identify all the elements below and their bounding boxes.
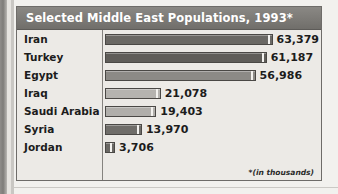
bar-value-label: 21,078 [165, 87, 207, 100]
bar-segment [105, 34, 273, 45]
bar-row: Syria13,970 [17, 120, 321, 138]
bar-value-label: 13,970 [146, 123, 188, 136]
chart-title-bar: Selected Middle East Populations, 1993* [17, 7, 321, 30]
bar-segment [105, 88, 161, 99]
bar-track: 19,403 [102, 102, 321, 120]
bar-row-label: Iran [17, 33, 102, 45]
bar-row: Jordan3,706 [17, 138, 321, 156]
bar-segment [105, 142, 115, 153]
bar-track: 21,078 [102, 84, 321, 102]
page-background: Selected Middle East Populations, 1993* … [0, 0, 338, 194]
bar-row: Saudi Arabia19,403 [17, 102, 321, 120]
bar-value-label: 61,187 [271, 51, 313, 64]
bar-segment [105, 70, 256, 81]
bar-track: 61,187 [102, 48, 321, 66]
bar-track: 13,970 [102, 120, 321, 138]
page-binding-edge [0, 0, 7, 194]
bar-value-label: 3,706 [119, 141, 154, 154]
population-chart-panel: Selected Middle East Populations, 1993* … [16, 6, 322, 181]
bar-row: Egypt56,986 [17, 66, 321, 84]
bar-row: Iran63,379 [17, 30, 321, 48]
bar-segment [105, 124, 142, 135]
chart-title: Selected Middle East Populations, 1993* [26, 11, 293, 25]
bar-row-label: Iraq [17, 87, 102, 99]
bar-row-label: Saudi Arabia [17, 105, 102, 117]
chart-footnote: *(in thousands) [249, 168, 314, 177]
bar-segment [105, 52, 267, 63]
page-bottom-rule [14, 187, 338, 188]
bar-track: 63,379 [102, 30, 321, 48]
bar-value-label: 63,379 [277, 33, 319, 46]
bar-rows-container: Iran63,379Turkey61,187Egypt56,986Iraq21,… [17, 30, 321, 156]
bar-track: 56,986 [102, 66, 321, 84]
bar-row-label: Syria [17, 123, 102, 135]
bar-row-label: Egypt [17, 69, 102, 81]
bar-row-label: Jordan [17, 141, 102, 153]
bar-track: 3,706 [102, 138, 321, 156]
chart-plot-area: Iran63,379Turkey61,187Egypt56,986Iraq21,… [17, 30, 321, 180]
bar-row-label: Turkey [17, 51, 102, 63]
bar-segment [105, 106, 156, 117]
bar-value-label: 56,986 [260, 69, 302, 82]
bar-value-label: 19,403 [160, 105, 202, 118]
bar-row: Iraq21,078 [17, 84, 321, 102]
page-binding-shadow [11, 0, 14, 194]
bar-row: Turkey61,187 [17, 48, 321, 66]
